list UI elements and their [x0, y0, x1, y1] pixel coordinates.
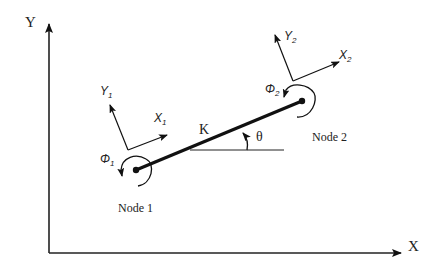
node2-point	[299, 98, 305, 104]
beam-element: K	[133, 98, 305, 173]
stiffness-label: K	[199, 122, 209, 137]
node2-rotation-label: Φ2	[265, 82, 280, 98]
node1-local-x-label: X1	[153, 111, 166, 127]
node1-local-y-label: Y1	[100, 84, 112, 100]
node1-local-x-axis	[128, 135, 167, 150]
global-y-label: Y	[25, 14, 36, 30]
node2-local-x-axis	[293, 62, 339, 81]
node1-rotation-label: Φ1	[100, 152, 115, 168]
theta-label: θ	[256, 129, 263, 144]
beam-element-diagram: Y X K θ Y1 X1 Φ1 Y2 X2 Φ2 Node 1 Node	[0, 0, 441, 269]
node1-rotation: Φ1	[100, 152, 152, 186]
node1-local-frame: Y1 X1	[100, 84, 167, 150]
node2-local-frame: Y2 X2	[275, 29, 352, 81]
node2-label: Node 2	[312, 130, 347, 144]
node2-local-x-label: X2	[338, 48, 352, 64]
node1-point	[133, 167, 139, 173]
node1-local-y-axis	[110, 105, 128, 150]
node2-local-y-label: Y2	[284, 29, 297, 45]
theta-arc-icon	[243, 133, 248, 150]
node1-label: Node 1	[118, 201, 153, 215]
global-x-label: X	[408, 238, 419, 254]
